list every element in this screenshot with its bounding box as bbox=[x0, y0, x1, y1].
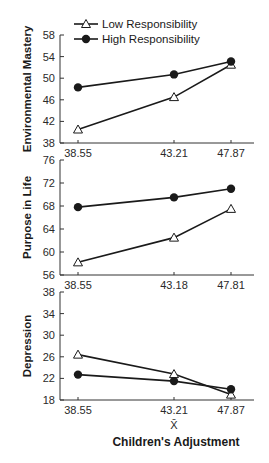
panel-2: 76726864605638.5543.1847.81Purpose in Li… bbox=[21, 154, 254, 291]
x-tick-label: 38.55 bbox=[64, 404, 92, 416]
legend: Low ResponsibilityHigh Responsibility bbox=[74, 18, 200, 45]
high-responsibility-line bbox=[78, 61, 231, 87]
y-tick-label: 76 bbox=[43, 154, 55, 166]
circle-marker bbox=[170, 377, 178, 385]
circle-marker bbox=[82, 35, 90, 43]
x-axis-title: Children's Adjustment bbox=[112, 435, 239, 449]
y-tick-label: 64 bbox=[43, 223, 55, 235]
y-tick-label: 46 bbox=[43, 94, 55, 106]
y-tick-label: 34 bbox=[43, 308, 55, 320]
y-axis-label: Depression bbox=[21, 315, 33, 378]
triangle-marker bbox=[74, 350, 83, 358]
low-responsibility-line bbox=[78, 355, 231, 395]
y-axis-label: Environmental Mastery bbox=[21, 25, 33, 152]
y-tick-label: 68 bbox=[43, 200, 55, 212]
y-tick-label: 26 bbox=[43, 351, 55, 363]
y-tick-label: 30 bbox=[43, 329, 55, 341]
x-tick-label: 47.87 bbox=[217, 404, 245, 416]
circle-marker bbox=[74, 203, 82, 211]
y-axis-label: Purpose in Life bbox=[21, 176, 33, 259]
x-tick-label: 43.21 bbox=[160, 404, 188, 416]
triangle-marker bbox=[170, 93, 179, 101]
x-tick-label: 47.87 bbox=[217, 147, 245, 159]
circle-marker bbox=[227, 385, 235, 393]
circle-marker bbox=[74, 370, 82, 378]
circle-marker bbox=[227, 185, 235, 193]
legend-high-label: High Responsibility bbox=[102, 33, 200, 45]
y-tick-label: 38 bbox=[43, 286, 55, 298]
legend-low-label: Low Responsibility bbox=[102, 18, 197, 30]
x-tick-label: 43.21 bbox=[160, 147, 188, 159]
y-tick-label: 54 bbox=[43, 51, 55, 63]
y-tick-label: 38 bbox=[43, 137, 55, 149]
y-tick-label: 18 bbox=[43, 394, 55, 406]
triangle-marker bbox=[170, 233, 179, 241]
low-responsibility-line bbox=[78, 65, 231, 130]
triangle-marker bbox=[227, 204, 236, 212]
x-tick-label: 38.55 bbox=[64, 147, 92, 159]
high-responsibility-line bbox=[78, 189, 231, 207]
circle-marker bbox=[227, 57, 235, 65]
y-tick-label: 72 bbox=[43, 177, 55, 189]
low-responsibility-line bbox=[78, 209, 231, 262]
chart-figure: 58545046423838.5543.2147.87Environmental… bbox=[0, 0, 269, 463]
circle-marker bbox=[170, 70, 178, 78]
x-bar-symbol: X̄ bbox=[170, 419, 178, 431]
y-tick-label: 42 bbox=[43, 115, 55, 127]
x-tick-label: 43.18 bbox=[160, 279, 188, 291]
x-tick-label: 47.81 bbox=[217, 279, 245, 291]
y-tick-label: 50 bbox=[43, 72, 55, 84]
x-tick-label: 38.55 bbox=[64, 279, 92, 291]
panel-1: 58545046423838.5543.2147.87Environmental… bbox=[21, 25, 254, 159]
y-tick-label: 56 bbox=[43, 269, 55, 281]
caption-fragment bbox=[0, 455, 269, 463]
circle-marker bbox=[170, 193, 178, 201]
y-tick-label: 22 bbox=[43, 372, 55, 384]
panel-3: 38343026221838.5543.2147.87Depression bbox=[21, 286, 254, 416]
y-tick-label: 60 bbox=[43, 246, 55, 258]
y-tick-label: 58 bbox=[43, 29, 55, 41]
circle-marker bbox=[74, 83, 82, 91]
